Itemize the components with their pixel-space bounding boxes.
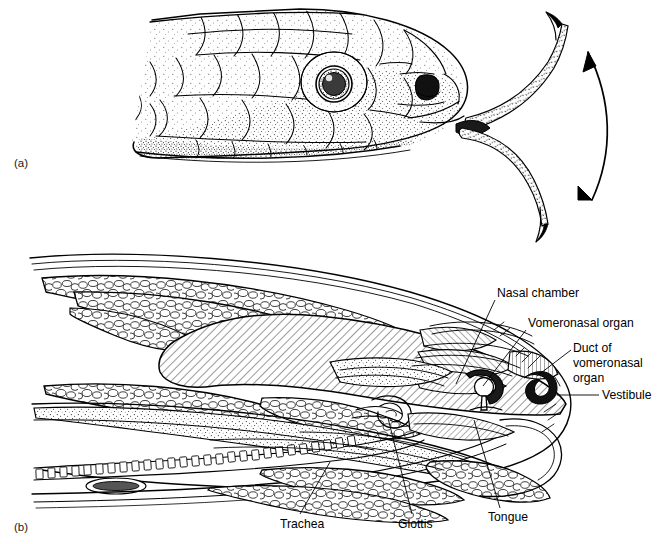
vomeronasal-duct <box>481 396 487 410</box>
motion-arrow-head-up <box>583 52 596 72</box>
snake-eye <box>316 66 352 102</box>
tongue-flick-arrow <box>578 52 607 200</box>
figure-root: Nasal chamber Vomeronasal organ Duct of … <box>0 0 662 544</box>
label-duct-line-3: organ <box>573 371 604 385</box>
label-duct-line-1: Duct of <box>573 341 612 355</box>
snake-tongue <box>456 12 568 242</box>
panel-b-artwork <box>30 254 571 522</box>
label-glottis: Glottis <box>398 517 433 531</box>
tongue-body <box>408 413 514 440</box>
tongue-lower-tine <box>459 128 548 226</box>
panel-tag-b: (b) <box>14 521 28 533</box>
eye-highlight <box>326 75 332 81</box>
label-tongue: Tongue <box>488 510 528 524</box>
tongue-sheath <box>408 413 514 440</box>
label-nasal-chamber: Nasal chamber <box>497 286 579 300</box>
figure-illustration: Nasal chamber Vomeronasal organ Duct of … <box>0 0 662 544</box>
tongue-upper-tine <box>465 24 568 130</box>
motion-arrow-head-down <box>578 186 592 200</box>
label-duct-line-2: vomeronasal <box>573 356 643 370</box>
vomeronasal-lumen <box>475 378 494 397</box>
panel-a-artwork <box>120 0 607 242</box>
label-duct-of-vomeronasal-organ: Duct of vomeronasal organ <box>573 341 643 385</box>
panel-tag-a: (a) <box>14 157 28 169</box>
label-trachea: Trachea <box>280 517 324 531</box>
label-vestibule: Vestibule <box>602 388 652 402</box>
eye-pupil <box>323 73 346 96</box>
label-vomeronasal-organ: Vomeronasal organ <box>528 316 634 330</box>
tongue-lower-tip <box>536 224 548 242</box>
motion-arrow-shaft <box>588 52 607 200</box>
